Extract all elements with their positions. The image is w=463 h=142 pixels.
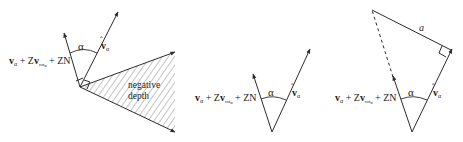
diagram-canvas: α vα ˆ vα + Zvrotα + ZN negative depth α… (0, 0, 463, 142)
right-diagram: α vα ˆ a vα + Zvrotα + ZN (335, 10, 452, 132)
angle-arc (401, 97, 427, 100)
vector-expression: vα + Zvrotα + ZN (335, 92, 397, 105)
right-angle-marker (439, 46, 446, 57)
region-label-negative: negative (128, 80, 160, 90)
combined-vector-arrow (393, 76, 412, 132)
region-label-depth: depth (128, 91, 149, 101)
angle-label: α (408, 86, 414, 98)
left-diagram: α vα ˆ vα + Zvrotα + ZN negative depth (9, 12, 175, 132)
vector-expression: vα + Zvrotα + ZN (195, 92, 257, 105)
combined-vector-arrow (253, 74, 272, 132)
angle-label: α (268, 86, 274, 98)
hat-mark: ˆ (432, 83, 435, 92)
side-a-label: a (419, 22, 424, 33)
side-a-line (372, 10, 451, 50)
middle-diagram: α vα ˆ vα + Zvrotα + ZN (195, 49, 310, 132)
dashed-extension (372, 10, 393, 77)
vector-expression: vα + Zvrotα + ZN (9, 55, 71, 68)
hat-mark: ˆ (100, 36, 103, 45)
hat-mark: ˆ (291, 83, 294, 92)
angle-label: α (78, 40, 84, 52)
